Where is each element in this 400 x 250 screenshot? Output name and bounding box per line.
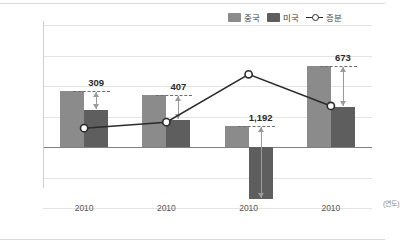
plot-area: 3094071,192673 2010201020102010 (연도)	[43, 0, 372, 250]
increment-line-marker	[327, 102, 334, 109]
x-axis-tick-label: 2010	[321, 203, 340, 213]
x-axis-tick-label: 2010	[239, 203, 258, 213]
increment-line-path	[84, 74, 331, 128]
x-axis-tick-label: 2010	[75, 203, 94, 213]
increment-line-marker	[81, 125, 88, 132]
increment-line-marker	[245, 71, 252, 78]
increment-line-marker	[163, 119, 170, 126]
x-axis-unit-label: (연도)	[383, 198, 400, 208]
x-axis-tick-label: 2010	[157, 203, 176, 213]
